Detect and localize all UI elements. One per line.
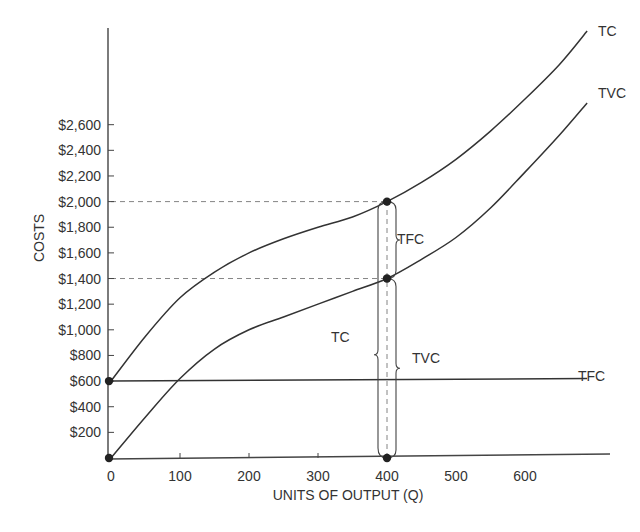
marker-dot [105, 377, 113, 385]
x-tick-label: 200 [237, 468, 261, 484]
y-tick-label: $2,600 [58, 117, 101, 133]
tvc-curve [111, 103, 587, 458]
tc-curve-label: TC [598, 23, 617, 39]
y-tick-label: $2,200 [58, 168, 101, 184]
y-tick-label: $2,400 [58, 142, 101, 158]
marker-dot [383, 197, 391, 205]
tc-brace-label: TC [331, 329, 350, 345]
axis-ticks: $200$400$600$800$1,000$1,200$1,400$1,600… [58, 117, 537, 484]
marker-dot [383, 454, 391, 462]
y-tick-label: $600 [70, 373, 101, 389]
tfc-line-label: TFC [578, 368, 605, 384]
y-tick-label: $200 [70, 424, 101, 440]
x-tick-label: 0 [107, 468, 115, 484]
tfc-brace-label: TFC [397, 231, 424, 247]
cost-curves [111, 31, 587, 458]
tc-brace [374, 202, 387, 458]
x-tick-label: 600 [513, 468, 537, 484]
tfc-curve [111, 379, 587, 382]
y-tick-label: $1,000 [58, 322, 101, 338]
y-tick-label: $1,400 [58, 271, 101, 287]
tvc-curve-label: TVC [598, 85, 626, 101]
x-tick-label: 400 [375, 468, 399, 484]
x-axis [108, 454, 610, 459]
marker-dot [105, 454, 113, 462]
y-tick-label: $1,600 [58, 245, 101, 261]
tvc-brace-label: TVC [412, 350, 440, 366]
cost-curves-chart: $200$400$600$800$1,000$1,200$1,400$1,600… [0, 0, 640, 532]
tvc-brace [387, 279, 400, 458]
y-tick-label: $2,000 [58, 194, 101, 210]
x-tick-label: 100 [168, 468, 192, 484]
y-tick-label: $1,200 [58, 296, 101, 312]
x-tick-label: 500 [444, 468, 468, 484]
marker-dot [383, 274, 391, 282]
x-tick-label: 300 [306, 468, 330, 484]
y-axis-label: COSTS [31, 214, 47, 262]
y-tick-label: $400 [70, 399, 101, 415]
axes [108, 28, 610, 459]
y-tick-label: $1,800 [58, 219, 101, 235]
x-axis-label: UNITS OF OUTPUT (Q) [273, 487, 424, 503]
y-tick-label: $800 [70, 347, 101, 363]
